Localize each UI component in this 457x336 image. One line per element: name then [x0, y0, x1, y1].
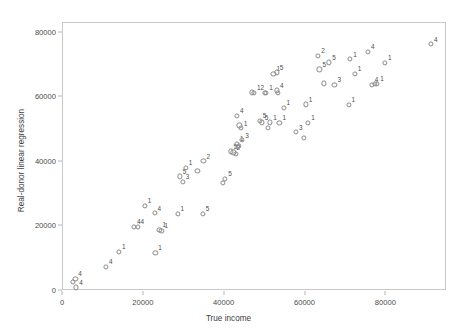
- scatter-point: [153, 250, 158, 255]
- scatter-point: [346, 102, 351, 107]
- scatter-point: [200, 211, 205, 216]
- y-tick-text: 40000: [35, 156, 56, 165]
- scatter-point-label: 1: [380, 76, 384, 82]
- scatter-points-layer: 4441441411115315255214131255111541131125…: [0, 0, 457, 336]
- y-tick-text: 80000: [35, 27, 56, 36]
- scatter-point-label: 4: [434, 36, 438, 42]
- scatter-point-label: 1: [269, 85, 273, 91]
- scatter-point: [175, 211, 180, 216]
- scatter-point-label: 4: [280, 83, 284, 89]
- y-tick-text: 0: [52, 286, 56, 295]
- scatter-point-label: 4: [141, 219, 145, 225]
- scatter-point-label: 3: [337, 77, 341, 83]
- scatter-point: [259, 120, 264, 125]
- scatter-point: [327, 60, 332, 65]
- scatter-point-label: 1: [287, 100, 291, 106]
- scatter-point-label: 1: [189, 160, 193, 166]
- scatter-point-label: 2: [321, 48, 325, 54]
- scatter-point-label: 1: [282, 115, 286, 121]
- scatter-point: [236, 143, 241, 148]
- scatter-point-label: 1: [309, 97, 313, 103]
- scatter-point-label: 1: [244, 120, 248, 126]
- x-tick-mark: [223, 291, 224, 295]
- scatter-point-label: 2: [206, 153, 210, 159]
- scatter-point: [135, 224, 140, 229]
- scatter-point-label: 4: [79, 280, 83, 286]
- y-tick-text: 60000: [35, 92, 56, 101]
- scatter-point: [103, 264, 108, 269]
- scatter-point-label: 4: [240, 108, 244, 114]
- scatter-point-label: 3: [186, 174, 190, 180]
- scatter-point: [234, 113, 239, 118]
- scatter-point-label: 5: [332, 55, 336, 61]
- x-tick-label: 40000: [213, 298, 234, 307]
- x-tick-label: 60000: [294, 298, 315, 307]
- scatter-point-label: 1: [181, 206, 185, 212]
- scatter-point-label: 1: [311, 115, 315, 121]
- scatter-point: [152, 211, 157, 216]
- y-tick-mark: [58, 160, 62, 161]
- x-axis-title: True income: [0, 314, 457, 323]
- scatter-point: [266, 125, 271, 130]
- scatter-point: [317, 67, 322, 72]
- x-tick-mark: [385, 291, 386, 295]
- scatter-point-label: 5: [280, 65, 284, 71]
- scatter-point: [234, 151, 239, 156]
- scatter-point: [365, 49, 370, 54]
- scatter-point-label: 4: [158, 205, 162, 211]
- scatter-point: [303, 102, 308, 107]
- scatter-point: [74, 285, 79, 290]
- y-tick-text: 20000: [35, 221, 56, 230]
- scatter-point: [306, 120, 311, 125]
- scatter-point: [183, 165, 188, 170]
- scatter-point-label: 1: [352, 97, 356, 103]
- scatter-point: [352, 71, 357, 76]
- x-tick-mark: [142, 291, 143, 295]
- scatter-point: [238, 126, 243, 131]
- scatter-point: [316, 53, 321, 58]
- scatter-point: [142, 203, 147, 208]
- scatter-point-label: 3: [299, 124, 303, 130]
- scatter-point: [116, 249, 121, 254]
- y-axis-title: Real-donor linear regression: [17, 86, 26, 236]
- scatter-point: [293, 130, 298, 135]
- chart-canvas: 4441441411115315255214131255111541131125…: [0, 0, 457, 336]
- scatter-point: [382, 60, 387, 65]
- scatter-point: [348, 57, 353, 62]
- scatter-point: [281, 105, 286, 110]
- scatter-point: [240, 138, 245, 143]
- x-tick-label: 80000: [375, 298, 396, 307]
- x-tick-label: 20000: [132, 298, 153, 307]
- scatter-point-label: 1: [148, 198, 152, 204]
- scatter-point-label: 5: [206, 206, 210, 212]
- y-tick-mark: [58, 31, 62, 32]
- scatter-point: [268, 120, 273, 125]
- scatter-point-label: 4: [109, 259, 113, 265]
- scatter-point-label: 4: [371, 44, 375, 50]
- x-tick-label: 0: [60, 298, 64, 307]
- x-tick-mark: [62, 291, 63, 295]
- scatter-point-label: 5: [228, 171, 232, 177]
- scatter-point-label: 1: [388, 55, 392, 61]
- scatter-point: [277, 120, 282, 125]
- y-tick-mark: [58, 96, 62, 97]
- y-tick-mark: [58, 225, 62, 226]
- x-tick-mark: [304, 291, 305, 295]
- scatter-point-label: 1: [158, 245, 162, 251]
- scatter-point-label: 1: [358, 66, 362, 72]
- scatter-point: [275, 90, 280, 95]
- scatter-point: [251, 90, 256, 95]
- scatter-point: [274, 70, 279, 75]
- scatter-point: [159, 228, 164, 233]
- scatter-point: [73, 276, 78, 281]
- scatter-point-label: 1: [353, 51, 357, 57]
- scatter-point-label: 4: [78, 271, 82, 277]
- scatter-point: [332, 82, 337, 87]
- scatter-point-label: 1: [122, 244, 126, 250]
- scatter-point: [223, 176, 228, 181]
- scatter-point: [180, 179, 185, 184]
- scatter-point: [302, 135, 307, 140]
- scatter-point: [428, 42, 433, 47]
- scatter-point: [375, 81, 380, 86]
- scatter-point-label: 5: [322, 62, 326, 68]
